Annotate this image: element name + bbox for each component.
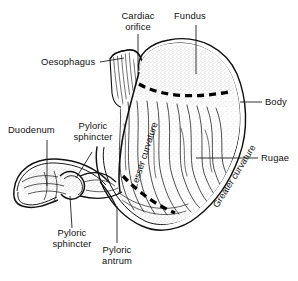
label-fundus: Fundus	[174, 10, 206, 21]
label-cardiac-orifice: Cardiac orifice	[107, 10, 169, 32]
leader-pyloric-sphincter-bottom	[70, 196, 72, 228]
label-pyloric-sphincter-top: Pyloric sphincter	[62, 120, 124, 142]
duodenum-structure	[14, 159, 122, 208]
label-body: Body	[265, 96, 287, 107]
label-rugae: Rugae	[261, 152, 289, 163]
label-duodenum: Duodenum	[8, 124, 55, 135]
label-pyloric-antrum: Pyloric antrum	[88, 244, 146, 266]
label-oesophagus: Oesophagus	[41, 56, 95, 67]
stomach-anatomy-diagram: Cardiac orifice Fundus Oesophagus Body R…	[0, 0, 298, 281]
